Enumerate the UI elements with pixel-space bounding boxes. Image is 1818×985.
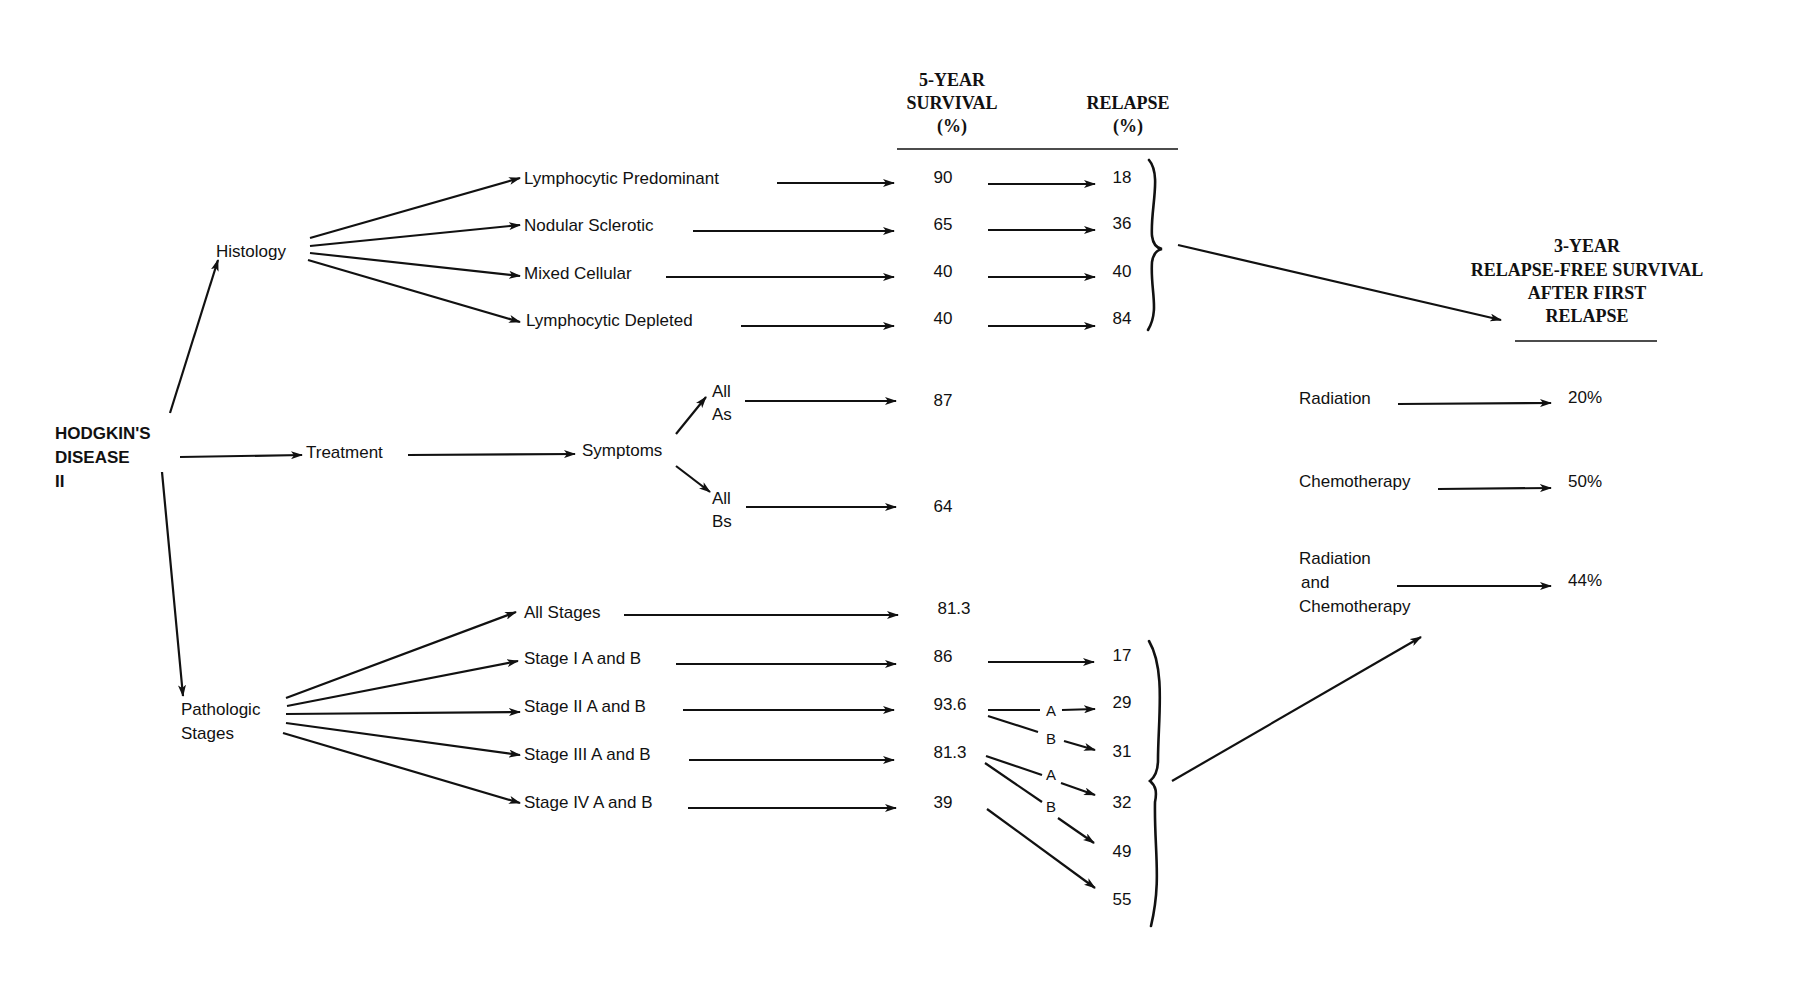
survival-value: 90 [934,168,953,187]
arrow-root-to-treatment [180,455,302,457]
arrow-stages-3 [286,712,520,714]
arrow-stage2a-to-relapse [1062,709,1095,710]
arrow-treatment-to-symptoms [408,454,575,455]
rfs-row-chemotherapy: Chemotherapy 50% [1299,472,1602,491]
relapse-value: 29 [1113,693,1132,712]
survival-value: 81.3 [937,599,970,618]
rfs-header-line-4: RELAPSE [1545,306,1628,326]
rfs-value: 50% [1568,472,1602,491]
survival-header-line-1: 5-YEAR [919,70,986,90]
arrow-root-to-stages [162,472,183,696]
survival-header-line-3: (%) [937,116,967,137]
arrow-histology-3 [310,253,520,276]
relapse-value: 49 [1113,842,1132,861]
rfs-header: 3-YEAR RELAPSE-FREE SURVIVAL AFTER FIRST… [1471,236,1704,326]
relapse-value: 32 [1113,793,1132,812]
relapse-header: RELAPSE (%) [1086,93,1169,137]
stage-label: Stage I A and B [524,649,641,668]
symptom-label-line-2: As [712,405,732,424]
rfs-label: Radiation [1299,389,1371,408]
survival-value: 87 [934,391,953,410]
root-line-1: HODGKIN'S [55,424,151,443]
arrow-stage2b-to-relapse [1064,741,1095,750]
stage-row-4: Stage IV A and B 39 [524,793,952,812]
treatment-node: Treatment [306,443,383,462]
stage-label: Stage IV A and B [524,793,653,812]
symptoms-row-bs: All Bs 64 [712,489,952,531]
rfs-label-line-3: Chemotherapy [1299,597,1411,616]
branch-label-a: A [1046,766,1056,783]
arrow-to-rfs-value [1398,403,1551,404]
arrow-symptoms-to-bs [676,466,710,492]
branch-label-b: B [1046,730,1056,747]
rfs-value: 20% [1568,388,1602,407]
stage-label: Stage III A and B [524,745,651,764]
survival-value: 40 [934,262,953,281]
stage-relapse-values: 17 29 31 32 49 55 [1113,646,1132,909]
stages-label-line-2: Stages [181,724,234,743]
histology-row-4: Lymphocytic Depleted 40 84 [526,309,1131,330]
root-line-2: DISEASE [55,448,130,467]
arrow-stage3b-to-relapse [1058,818,1094,843]
relapse-value: 40 [1113,262,1132,281]
relapse-value: 17 [1113,646,1132,665]
relapse-value: 18 [1113,168,1132,187]
rfs-label: Chemotherapy [1299,472,1411,491]
relapse-header-line-2: (%) [1113,116,1143,137]
survival-header: 5-YEAR SURVIVAL (%) [906,70,997,137]
histology-row-1: Lymphocytic Predominant 90 18 [524,168,1131,188]
symptom-label-line-1: All [712,382,731,401]
stages-node: Pathologic Stages [181,700,261,743]
survival-value: 81.3 [933,743,966,762]
survival-value: 64 [934,497,953,516]
stage-row-1: Stage I A and B 86 [524,647,952,668]
arrow-root-to-histology [170,260,218,413]
stages-label-line-1: Pathologic [181,700,261,719]
hodgkins-disease-flow-diagram: 5-YEAR SURVIVAL (%) RELAPSE (%) 3-YEAR R… [0,0,1818,985]
rfs-header-line-2: RELAPSE-FREE SURVIVAL [1471,260,1704,280]
arrow-stage2b-segment [988,716,1038,732]
histology-label: Lymphocytic Depleted [526,311,693,330]
arrow-stage3b-segment [985,763,1042,802]
arrow-stage4-to-relapse [987,809,1095,888]
branch-label-a: A [1046,702,1056,719]
histology-relapse-brace [1148,160,1162,330]
arrow-stage3a-to-relapse [1061,783,1095,795]
relapse-value: 55 [1113,890,1132,909]
rfs-header-line-3: AFTER FIRST [1528,283,1647,303]
rfs-label-line-1: Radiation [1299,549,1371,568]
rfs-header-line-1: 3-YEAR [1554,236,1621,256]
arrow-histology-relapse-to-rfs [1178,245,1501,320]
root-line-3: II [55,472,64,491]
arrow-stages-relapse-to-rfs [1172,637,1421,781]
survival-value: 86 [934,647,953,666]
histology-node: Histology [216,242,286,261]
arrow-symptoms-to-as [676,397,706,434]
rfs-value: 44% [1568,571,1602,590]
root-node: HODGKIN'S DISEASE II [55,424,151,491]
arrow-histology-4 [308,260,520,322]
rfs-label-line-2: and [1301,573,1329,592]
histology-label: Mixed Cellular [524,264,632,283]
histology-label: Nodular Sclerotic [524,216,654,235]
stages-relapse-brace [1149,641,1160,926]
rfs-row-combined: Radiation and Chemotherapy 44% [1299,549,1602,616]
branch-label-b: B [1046,798,1056,815]
symptom-label-line-1: All [712,489,731,508]
arrow-stages-1 [286,612,516,698]
rfs-row-radiation: Radiation 20% [1299,388,1602,408]
survival-value: 65 [934,215,953,234]
arrow-stages-4 [286,723,520,755]
relapse-header-line-1: RELAPSE [1086,93,1169,113]
stage-row-2: Stage II A and B 93.6 [524,695,967,716]
symptoms-node: Symptoms [582,441,662,460]
relapse-value: 84 [1113,309,1132,328]
stage-label: All Stages [524,603,601,622]
stage-row-3: Stage III A and B 81.3 [524,743,967,764]
histology-row-2: Nodular Sclerotic 65 36 [524,214,1131,235]
symptom-label-line-2: Bs [712,512,732,531]
survival-value: 93.6 [933,695,966,714]
survival-value: 39 [934,793,953,812]
arrow-stage3a-segment [986,756,1042,775]
survival-value: 40 [934,309,953,328]
